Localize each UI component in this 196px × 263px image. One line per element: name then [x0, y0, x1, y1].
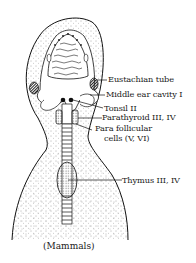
label-thymus: Thymus III, IV — [122, 176, 180, 185]
label-middle-ear-cavity: Middle ear cavity I — [106, 90, 182, 99]
label-para-follicular-2: cells (V, VI) — [104, 134, 149, 143]
tonsil-right — [69, 98, 74, 103]
tonsil-left — [61, 98, 66, 103]
eustachian-right — [90, 78, 98, 90]
label-para-follicular-1: Para follicular — [95, 124, 152, 133]
label-eustachian-tube: Eustachian tube — [108, 75, 174, 84]
eustachian-left — [30, 82, 39, 94]
parathyroid-left — [56, 110, 62, 124]
label-parathyroid: Parathyroid III, IV — [102, 113, 175, 122]
caption-mammals: (Mammals) — [43, 241, 95, 251]
parathyroid-right — [72, 110, 78, 124]
